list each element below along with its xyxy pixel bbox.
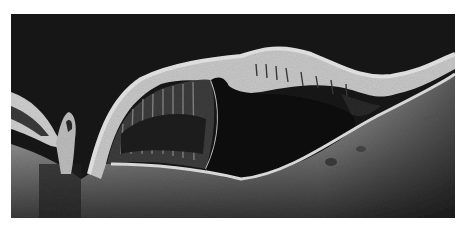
oct-scan-image xyxy=(11,14,455,218)
